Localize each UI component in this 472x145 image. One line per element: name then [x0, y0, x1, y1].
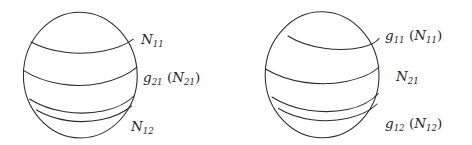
left-band-line-1 [31, 39, 133, 53]
right-band-line-2 [266, 67, 379, 84]
left-band-line-2 [24, 67, 137, 85]
diagram-canvas: N11 g21 (N21) N12 g11 (N11) N21 g12 (N12… [0, 0, 472, 145]
right-band-line-4 [272, 94, 378, 112]
right-band-line-1 [288, 36, 379, 49]
right-sphere-outline [265, 12, 379, 138]
right-label-bottom-text: g12 (N12) [385, 115, 442, 133]
right-label-middle-text: N21 [395, 68, 419, 86]
right-label-top-text: g11 (N11) [385, 27, 442, 45]
left-label-bottom-text: N12 [130, 118, 154, 136]
left-band-line-4 [30, 96, 135, 114]
left-label-top-text: N11 [140, 31, 164, 49]
sphere-diagram-svg: N11 g21 (N21) N12 g11 (N11) N21 g12 (N12… [0, 0, 472, 145]
left-label-middle-text: g21 (N21) [143, 69, 200, 87]
right-sphere [265, 12, 379, 138]
left-sphere-outline [23, 12, 137, 138]
left-sphere [23, 12, 137, 138]
